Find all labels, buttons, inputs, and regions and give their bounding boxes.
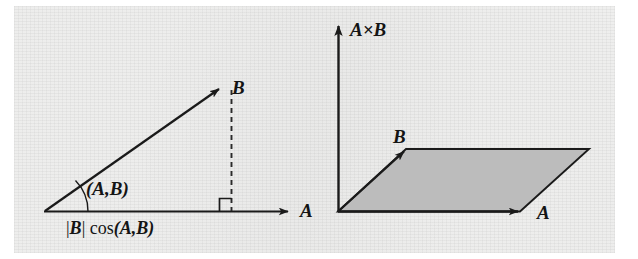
right-vector-a-label: A	[537, 203, 550, 222]
left-projection-label: |B| cos(A,B)	[66, 219, 154, 237]
left-angle-label: (A,B)	[86, 179, 129, 198]
projection-vector-b: B	[70, 218, 82, 238]
left-vector-b	[45, 89, 219, 211]
right-vector-b-label: B	[393, 127, 406, 146]
projection-cos: | cos	[82, 218, 114, 238]
right-parallelogram	[338, 149, 589, 212]
figure-root: A B (A,B) |B| cos(A,B) A×B A B	[0, 0, 638, 259]
left-axis-a-label: A	[300, 201, 313, 220]
right-axis-cross-label: A×B	[350, 20, 386, 39]
projection-angle: (A,B)	[114, 218, 155, 238]
left-vector-b-label: B	[232, 78, 245, 97]
left-right-angle-marker	[220, 199, 232, 212]
